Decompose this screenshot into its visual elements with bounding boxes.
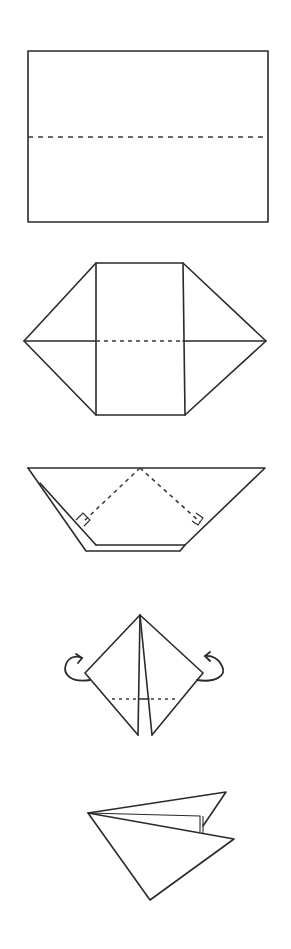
hexagon-outline (24, 263, 266, 415)
kite-outline (85, 615, 203, 735)
origami-diagram: Rectangle with horizontal valley crease … (0, 0, 291, 949)
step-1-rectangle: Rectangle with horizontal valley crease (28, 51, 268, 222)
left-diagonal-fold (83, 468, 140, 522)
arrowhead-left-icon (76, 654, 82, 663)
step-4-kite: Kite with turn-over arrows (65, 615, 223, 735)
lower-triangle (88, 813, 234, 900)
right-diagonal-fold (140, 468, 200, 522)
step-5-final-form: Finished form (88, 792, 234, 900)
back-layer-outline (28, 468, 185, 551)
turn-over-arrow-left-icon (65, 657, 90, 681)
step-2-hexagon: Hexagon with corner folds (24, 263, 266, 415)
trapezoid-outline (28, 468, 265, 545)
right-center-flap (140, 615, 152, 735)
right-angle-marker-right (192, 513, 203, 525)
step-3-trapezoid: Trapezoid with right-angle markers (28, 468, 265, 551)
left-center-flap (138, 615, 140, 735)
inner-layer-edge (40, 483, 96, 545)
turn-over-arrow-right-icon (197, 656, 223, 681)
upper-wing (88, 792, 226, 826)
right-fold-edge (183, 263, 185, 415)
